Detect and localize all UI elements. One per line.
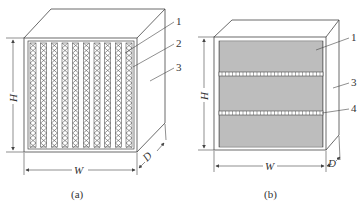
caption-b: (b) <box>264 188 277 201</box>
callout-3-a: 3 <box>176 61 182 73</box>
width-label-a: W <box>74 164 84 176</box>
callout-1-b: 1 <box>351 31 357 43</box>
box-outline-a <box>24 9 165 152</box>
callout-3-b: 3 <box>351 76 357 88</box>
callout-2-a: 2 <box>176 37 182 49</box>
panel-a: 1 2 3 H W D (a) <box>6 9 182 201</box>
depth-label-a: D <box>139 149 154 164</box>
panel-b: 1 3 4 H W D (b) <box>198 20 357 201</box>
diagram-canvas: 1 2 3 H W D (a) <box>0 0 362 208</box>
caption-a: (a) <box>71 188 84 201</box>
callout-1-a: 1 <box>176 15 182 27</box>
callout-4-b: 4 <box>351 102 357 114</box>
height-label-b: H <box>198 91 210 101</box>
depth-label-b: D <box>327 157 336 169</box>
width-label-b: W <box>265 160 275 172</box>
height-label-a: H <box>7 93 19 103</box>
